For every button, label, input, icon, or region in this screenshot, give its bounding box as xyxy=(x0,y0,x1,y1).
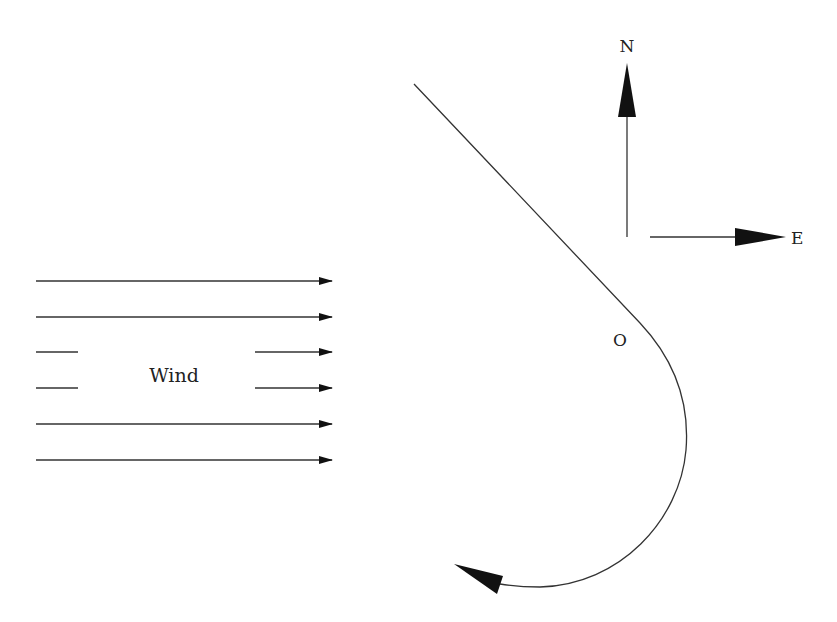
east-arrowhead-icon xyxy=(735,228,786,246)
north-arrowhead-icon xyxy=(618,63,636,117)
compass xyxy=(618,63,786,246)
diagram-canvas: Wind N E O xyxy=(0,0,837,622)
wind-label: Wind xyxy=(149,364,199,386)
trajectory-path xyxy=(414,84,687,587)
trajectory-arrowhead-icon xyxy=(454,564,503,594)
north-label: N xyxy=(620,36,635,56)
east-label: E xyxy=(791,228,803,248)
origin-label: O xyxy=(613,330,627,350)
